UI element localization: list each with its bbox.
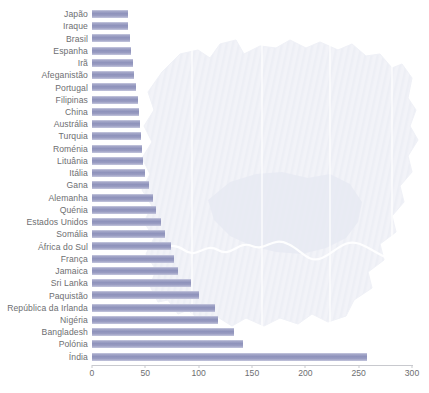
bar-row: Espanha bbox=[0, 45, 429, 57]
bar-track bbox=[92, 218, 412, 226]
category-label: Austrália bbox=[0, 119, 88, 129]
category-label: Itália bbox=[0, 168, 88, 178]
category-label: África do Sul bbox=[0, 242, 88, 252]
category-label: França bbox=[0, 254, 88, 264]
bar bbox=[92, 194, 153, 202]
bar-row: Quénia bbox=[0, 204, 429, 216]
bar bbox=[92, 340, 243, 348]
bar-track bbox=[92, 157, 412, 165]
category-label: Gana bbox=[0, 180, 88, 190]
bar bbox=[92, 169, 145, 177]
bar-track bbox=[92, 47, 412, 55]
category-label: Portugal bbox=[0, 83, 88, 93]
bar-row: França bbox=[0, 253, 429, 265]
x-tick-label: 100 bbox=[191, 368, 205, 378]
category-label: Espanha bbox=[0, 46, 88, 56]
bar-row: Sri Lanka bbox=[0, 277, 429, 289]
category-label: Turquia bbox=[0, 131, 88, 141]
bar-track bbox=[92, 230, 412, 238]
category-label: Sri Lanka bbox=[0, 278, 88, 288]
bar bbox=[92, 304, 215, 312]
bar-track bbox=[92, 145, 412, 153]
bar-row: Portugal bbox=[0, 81, 429, 93]
bar-row: Roménia bbox=[0, 143, 429, 155]
bar bbox=[92, 59, 133, 67]
bar bbox=[92, 206, 156, 214]
bar-row: Somália bbox=[0, 228, 429, 240]
bar-row: Brasil bbox=[0, 32, 429, 44]
bar-row: Lituânia bbox=[0, 155, 429, 167]
x-tick-label: 200 bbox=[298, 368, 312, 378]
bar-track bbox=[92, 194, 412, 202]
category-label: Polónia bbox=[0, 339, 88, 349]
bar-row: Afeganistão bbox=[0, 69, 429, 81]
bar bbox=[92, 47, 131, 55]
bar bbox=[92, 132, 141, 140]
bar bbox=[92, 71, 134, 79]
x-tick-label: 150 bbox=[245, 368, 259, 378]
category-label: Iraque bbox=[0, 21, 88, 31]
bar bbox=[92, 10, 128, 18]
bar bbox=[92, 108, 139, 116]
bar-track bbox=[92, 59, 412, 67]
category-label: China bbox=[0, 107, 88, 117]
bar-row: Filipinas bbox=[0, 94, 429, 106]
bar-row: Índia bbox=[0, 351, 429, 363]
bar-row: Polónia bbox=[0, 338, 429, 350]
x-axis-line bbox=[92, 365, 413, 366]
bar bbox=[92, 353, 367, 361]
category-label: Bangladesh bbox=[0, 327, 88, 337]
bar-row: Gana bbox=[0, 179, 429, 191]
bar-rows: JapãoIraqueBrasilEspanhaIrãAfeganistãoPo… bbox=[0, 8, 429, 363]
bar-track bbox=[92, 242, 412, 250]
bar-row: Irã bbox=[0, 57, 429, 69]
bar bbox=[92, 83, 136, 91]
bar-row: Bangladesh bbox=[0, 326, 429, 338]
category-label: República da Irlanda bbox=[0, 303, 88, 313]
category-label: Filipinas bbox=[0, 95, 88, 105]
bar-row: China bbox=[0, 106, 429, 118]
bar-chart: JapãoIraqueBrasilEspanhaIrãAfeganistãoPo… bbox=[0, 0, 429, 393]
bar bbox=[92, 22, 128, 30]
bar-track bbox=[92, 340, 412, 348]
x-tick-label: 300 bbox=[405, 368, 419, 378]
bar bbox=[92, 96, 138, 104]
bar bbox=[92, 230, 165, 238]
category-label: Nigéria bbox=[0, 315, 88, 325]
bar-row: Austrália bbox=[0, 118, 429, 130]
category-label: Paquistão bbox=[0, 291, 88, 301]
category-label: Jamaica bbox=[0, 266, 88, 276]
bar-track bbox=[92, 120, 412, 128]
x-tick-label: 0 bbox=[90, 368, 95, 378]
bar bbox=[92, 291, 199, 299]
category-label: Estados Unidos bbox=[0, 217, 88, 227]
bar-track bbox=[92, 267, 412, 275]
bar-track bbox=[92, 255, 412, 263]
bar-track bbox=[92, 108, 412, 116]
bar bbox=[92, 145, 142, 153]
bar bbox=[92, 34, 130, 42]
bar-row: Iraque bbox=[0, 20, 429, 32]
bar-row: Estados Unidos bbox=[0, 216, 429, 228]
bar-track bbox=[92, 181, 412, 189]
x-tick-label: 50 bbox=[141, 368, 151, 378]
bar-track bbox=[92, 304, 412, 312]
bar-row: África do Sul bbox=[0, 240, 429, 252]
bar-track bbox=[92, 83, 412, 91]
category-label: Lituânia bbox=[0, 156, 88, 166]
bar bbox=[92, 316, 218, 324]
bar-row: Jamaica bbox=[0, 265, 429, 277]
bar-row: Nigéria bbox=[0, 314, 429, 326]
bar-track bbox=[92, 206, 412, 214]
category-label: Quénia bbox=[0, 205, 88, 215]
bar bbox=[92, 181, 149, 189]
bar-row: Alemanha bbox=[0, 192, 429, 204]
bar bbox=[92, 157, 143, 165]
category-label: Japão bbox=[0, 9, 88, 19]
bar-row: Itália bbox=[0, 167, 429, 179]
bar bbox=[92, 279, 191, 287]
bar-track bbox=[92, 279, 412, 287]
bar-track bbox=[92, 10, 412, 18]
bar-track bbox=[92, 132, 412, 140]
bar-row: República da Irlanda bbox=[0, 302, 429, 314]
